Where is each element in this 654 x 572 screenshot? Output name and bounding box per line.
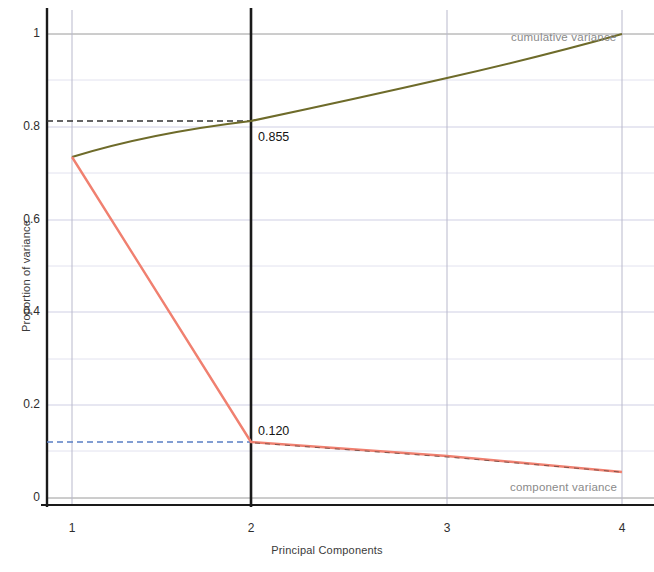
y-tick-label-0.4: 0.4 bbox=[0, 304, 40, 318]
plot-background bbox=[47, 10, 654, 505]
x-tick-label-2: 2 bbox=[231, 521, 271, 535]
x-axis-title: Principal Components bbox=[0, 544, 654, 556]
y-tick-label-0.6: 0.6 bbox=[0, 212, 40, 226]
chart-screenshot: Proportion of variance Principal Compone… bbox=[0, 0, 654, 572]
x-tick-label-3: 3 bbox=[427, 521, 467, 535]
y-tick-label-0: 0 bbox=[0, 490, 40, 504]
y-tick-label-0.8: 0.8 bbox=[0, 119, 40, 133]
y-axis-title: Proportion of variance bbox=[20, 206, 32, 346]
series-label-cumulative-variance: cumulative variance bbox=[511, 31, 616, 43]
x-tick-label-1: 1 bbox=[52, 521, 92, 535]
y-tick-label-0.2: 0.2 bbox=[0, 397, 40, 411]
x-tick-label-4: 4 bbox=[602, 521, 642, 535]
series-label-component-variance: component variance bbox=[510, 481, 617, 493]
point-label-component-0120: 0.120 bbox=[258, 424, 289, 438]
y-tick-label-1: 1 bbox=[0, 26, 40, 40]
point-label-cumulative-0855: 0.855 bbox=[258, 130, 289, 144]
